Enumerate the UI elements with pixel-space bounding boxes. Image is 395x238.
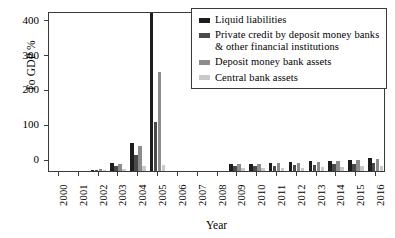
bar [241,168,244,171]
bar [103,170,106,171]
bar-group [168,13,188,171]
bar [110,163,113,171]
legend-swatch-icon [199,60,210,65]
bar [352,164,355,171]
legend-swatch-icon [199,33,210,38]
bar [154,122,157,171]
x-tick-mark [256,172,257,176]
x-tick-mark [335,172,336,176]
bar [99,169,102,171]
x-tick-mark [78,172,79,176]
bar [134,155,137,171]
bar [309,161,312,171]
bar [356,160,359,171]
legend: Liquid liabilitiesPrivate credit by depo… [191,8,387,89]
x-tick-mark [98,172,99,176]
x-tick-label: 2012 [296,184,307,206]
bar [122,169,125,171]
bar [293,165,296,171]
bar [281,168,284,171]
bar [368,158,371,171]
legend-label: Liquid liabilities [215,14,287,25]
bar [257,164,260,171]
bar [118,164,121,171]
x-axis-label: Year [48,219,385,231]
x-tick-label: 2013 [316,184,327,206]
x-tick-mark [157,172,158,176]
bar-group [69,13,89,171]
x-tick-mark [58,172,59,176]
x-tick-mark [276,172,277,176]
bar [229,164,232,171]
bar [138,146,141,171]
x-tick-mark [197,172,198,176]
x-tick-label: 2000 [58,184,69,206]
bar [142,166,145,171]
x-tick-label: 2015 [355,184,366,206]
bar-group [108,13,128,171]
x-tick-label: 2007 [197,184,208,206]
x-tick-label: 2008 [217,184,228,206]
legend-item: Central bank assets [199,72,380,83]
bar [277,163,280,171]
y-axis-ticks: 0100200300400 [0,0,48,160]
x-tick-mark [137,172,138,176]
x-tick-mark [177,172,178,176]
bar [380,166,383,171]
bar [328,161,331,171]
y-tick-label: 400 [23,14,40,26]
x-tick-label: 2014 [335,184,346,206]
bar [321,167,324,171]
bar [348,160,351,171]
y-tick-label: 100 [23,118,40,130]
legend-label: Central bank assets [215,72,298,83]
x-tick-label: 2010 [256,184,267,206]
bar [233,166,236,171]
bar-group [49,13,69,171]
y-tick-label: 300 [23,49,40,61]
bar [162,165,165,171]
bar [289,162,292,171]
x-tick-label: 2002 [98,184,109,206]
bar [273,166,276,171]
legend-label: Private credit by deposit money banks & … [215,29,380,52]
x-tick-label: 2011 [276,185,287,206]
x-tick-mark [236,172,237,176]
bar [340,167,343,171]
bar [114,166,117,171]
bar-group [128,13,148,171]
x-tick-label: 2004 [137,184,148,206]
legend-item: Liquid liabilities [199,14,380,25]
x-tick-mark [117,172,118,176]
bar-group [89,13,109,171]
bar [261,168,264,171]
x-tick-label: 2009 [236,184,247,206]
x-tick-mark [296,172,297,176]
bar [317,162,320,171]
x-tick-label: 2006 [177,184,188,206]
bar [376,159,379,171]
y-tick-label: 0 [34,153,40,165]
bar [313,165,316,171]
x-tick-label: 2003 [117,184,128,206]
legend-item: Deposit money bank assets [199,56,380,67]
legend-swatch-icon [199,75,210,80]
bar [253,166,256,171]
bar [301,168,304,171]
x-tick-label: 2001 [78,184,89,206]
bar [332,164,335,171]
bar [95,170,98,171]
bar [336,161,339,171]
legend-label: Deposit money bank assets [215,56,332,67]
bar [297,163,300,171]
bar-group [148,13,168,171]
bar [91,170,94,171]
bar [237,164,240,171]
x-tick-label: 2005 [157,184,168,206]
bar [130,143,133,171]
x-tick-mark [355,172,356,176]
bar [360,166,363,171]
bar [269,163,272,171]
legend-item: Private credit by deposit money banks & … [199,29,380,52]
x-tick-mark [217,172,218,176]
